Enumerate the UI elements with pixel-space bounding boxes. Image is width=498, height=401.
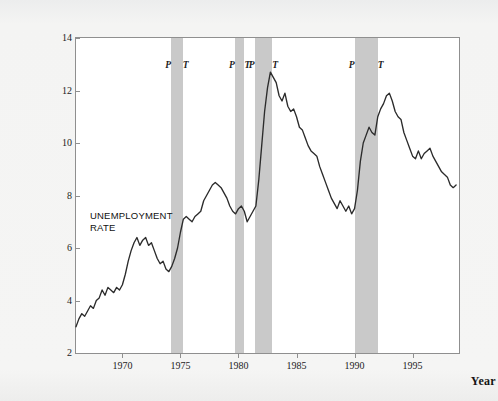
x-tick-label: 1980 xyxy=(228,361,248,371)
x-tick-mark xyxy=(297,353,298,358)
y-tick-label: 14 xyxy=(52,33,72,43)
x-tick-mark xyxy=(122,353,123,358)
y-tick-label: 10 xyxy=(52,138,72,148)
series-annotation-line2: RATE xyxy=(90,222,173,234)
y-tick-mark xyxy=(76,38,80,39)
x-tick-label: 1985 xyxy=(287,361,307,371)
series-annotation-line1: UNEMPLOYMENT xyxy=(90,210,173,222)
x-tick-mark xyxy=(355,353,356,358)
x-tick-label: 1990 xyxy=(345,361,365,371)
x-tick-mark xyxy=(238,353,239,358)
trough-label: T xyxy=(183,60,189,70)
unemployment-rate-line xyxy=(76,38,459,353)
trough-label: T xyxy=(272,60,278,70)
y-tick-mark xyxy=(76,143,80,144)
peak-label: P xyxy=(249,60,255,70)
y-tick-label: 6 xyxy=(52,243,72,253)
y-tick-label: 8 xyxy=(52,191,72,201)
x-tick-mark xyxy=(413,353,414,358)
y-tick-mark xyxy=(76,196,80,197)
x-tick-label: 1995 xyxy=(403,361,423,371)
x-tick-label: 1975 xyxy=(170,361,190,371)
trough-label: T xyxy=(378,60,384,70)
series-path-unemployment-rate xyxy=(76,72,456,327)
x-tick-mark xyxy=(180,353,181,358)
y-tick-label: 2 xyxy=(52,348,72,358)
peak-label: P xyxy=(229,60,235,70)
y-tick-mark xyxy=(76,301,80,302)
figure-container: Unemployment rate (percentage of labour … xyxy=(0,0,498,401)
y-tick-label: 4 xyxy=(52,296,72,306)
series-annotation: UNEMPLOYMENT RATE xyxy=(90,210,173,234)
x-axis-title: Year xyxy=(471,374,496,389)
peak-label: P xyxy=(165,60,171,70)
x-tick-label: 1970 xyxy=(112,361,132,371)
y-tick-mark xyxy=(76,248,80,249)
plot-area: 2468101214 197019751980198519901995 PTPT… xyxy=(75,37,460,354)
y-tick-mark xyxy=(76,353,80,354)
peak-label: P xyxy=(349,60,355,70)
y-tick-label: 12 xyxy=(52,86,72,96)
y-tick-mark xyxy=(76,91,80,92)
